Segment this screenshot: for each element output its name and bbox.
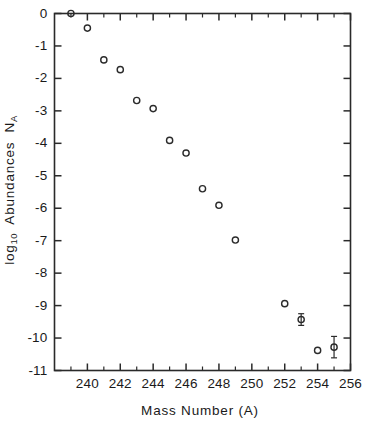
marker-A252 <box>282 301 288 307</box>
y-tick-label--11: -11 <box>28 363 47 378</box>
data-point-A252 <box>282 301 288 307</box>
marker-A246 <box>183 150 189 156</box>
y-tick-label--4: -4 <box>35 135 48 150</box>
marker-A254 <box>315 347 321 353</box>
y-axis-title-text: log10 Abundances NA <box>2 115 19 265</box>
x-axis-title: Mass Number (A) <box>141 403 259 418</box>
y-axis-title-symbol: N <box>2 122 17 133</box>
data-point-A243 <box>134 97 140 103</box>
y-tick-label--9: -9 <box>35 298 47 313</box>
y-axis-title-abundances: Abundances <box>2 142 17 225</box>
data-point-A254 <box>315 347 321 353</box>
marker-A241 <box>101 57 107 63</box>
y-axis-title: log10 Abundances NA <box>2 115 19 265</box>
marker-A240 <box>84 25 90 31</box>
x-axis-ticks <box>71 14 351 371</box>
data-point-A240 <box>84 25 90 31</box>
data-point-A249 <box>232 237 238 243</box>
y-tick-label--2: -2 <box>35 70 47 85</box>
y-tick-label-0: 0 <box>40 6 48 21</box>
y-tick-label--3: -3 <box>35 103 47 118</box>
data-point-A253 <box>298 314 304 326</box>
x-tick-label-252: 252 <box>273 376 296 391</box>
y-tick-label--1: -1 <box>35 38 47 53</box>
y-tick-label--5: -5 <box>35 168 47 183</box>
x-tick-label-256: 256 <box>339 376 362 391</box>
y-tick-label--6: -6 <box>35 200 47 215</box>
x-tick-label-254: 254 <box>306 376 329 391</box>
data-point-A241 <box>101 57 107 63</box>
x-tick-label-240: 240 <box>76 376 99 391</box>
x-tick-label-246: 246 <box>174 376 197 391</box>
marker-A248 <box>216 202 222 208</box>
data-point-A255 <box>331 336 337 357</box>
data-point-A246 <box>183 150 189 156</box>
data-point-A244 <box>150 105 156 111</box>
y-axis-tick-labels: 0-1-2-3-4-5-6-7-8-9-10-11 <box>27 6 47 378</box>
data-point-A248 <box>216 202 222 208</box>
marker-A242 <box>117 67 123 73</box>
scatter-plot-svg: 240242244246248250252254256 0-1-2-3-4-5-… <box>0 0 372 422</box>
marker-A245 <box>167 137 173 143</box>
y-axis-title-symbol-sub: A <box>8 115 19 122</box>
y-axis-title-log-sub: 10 <box>8 233 19 244</box>
abundances-vs-mass-number-chart: 240242244246248250252254256 0-1-2-3-4-5-… <box>0 0 372 422</box>
x-tick-label-250: 250 <box>240 376 263 391</box>
marker-A249 <box>232 237 238 243</box>
x-tick-label-242: 242 <box>109 376 132 391</box>
x-tick-label-244: 244 <box>142 376 165 391</box>
y-tick-label--7: -7 <box>35 233 47 248</box>
marker-A244 <box>150 105 156 111</box>
y-axis-title-log: log <box>2 244 17 264</box>
marker-A247 <box>199 186 205 192</box>
data-point-A247 <box>199 186 205 192</box>
y-tick-label--8: -8 <box>35 265 47 280</box>
data-point-A242 <box>117 67 123 73</box>
x-axis-tick-labels: 240242244246248250252254256 <box>76 376 362 391</box>
data-point-A245 <box>167 137 173 143</box>
x-tick-label-248: 248 <box>207 376 230 391</box>
data-points <box>68 10 337 357</box>
marker-A243 <box>134 97 140 103</box>
y-tick-label--10: -10 <box>27 330 47 345</box>
